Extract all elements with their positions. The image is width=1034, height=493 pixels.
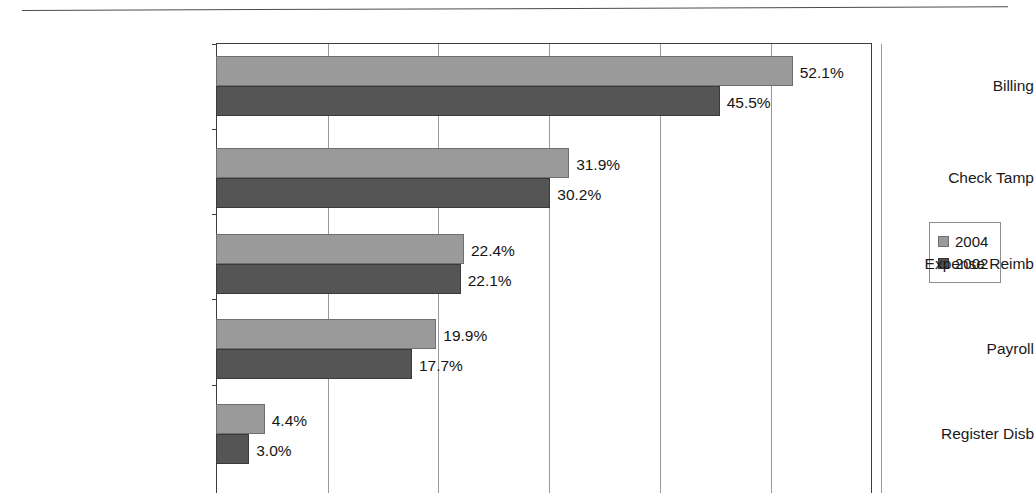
bar-2004-expense-reimb (216, 234, 464, 264)
bar-2002-payroll (216, 349, 412, 379)
bar-value-label: 22.1% (468, 273, 512, 289)
bar-value-label: 4.4% (272, 413, 307, 429)
bar-value-label: 45.5% (727, 95, 771, 111)
bar-2004-payroll (216, 319, 436, 349)
bar-value-label: 17.7% (419, 358, 463, 374)
bar-2004-check-tamp (216, 148, 569, 178)
bar-2004-register-disb (216, 404, 265, 434)
y-axis-tick-2 (212, 214, 217, 215)
y-axis-tick-1 (212, 129, 217, 130)
bar-value-label: 22.4% (471, 243, 515, 259)
bar-2002-billing (216, 86, 720, 116)
bar-2002-expense-reimb (216, 264, 461, 294)
bar-group: Expense Reimb22.4%22.1% (0, 234, 1034, 294)
y-axis-tick-0 (212, 44, 217, 45)
bar-group: Check Tamp31.9%30.2% (0, 148, 1034, 208)
category-label: Check Tamp (830, 170, 1034, 186)
y-axis-tick-3 (212, 299, 217, 300)
bar-group: Register Disb4.4%3.0% (0, 404, 1034, 464)
bar-value-label: 19.9% (443, 328, 487, 344)
bar-group: Billing52.1%45.5% (0, 56, 1034, 116)
category-label: Expense Reimb (830, 256, 1034, 272)
bar-2004-billing (216, 56, 793, 86)
category-label: Payroll (830, 341, 1034, 357)
bar-group: Payroll19.9%17.7% (0, 319, 1034, 379)
category-label: Register Disb (830, 426, 1034, 442)
y-axis-tick-4 (212, 385, 217, 386)
bar-value-label: 52.1% (800, 65, 844, 81)
bar-value-label: 3.0% (256, 443, 291, 459)
bar-2002-register-disb (216, 434, 249, 464)
category-label: Billing (830, 78, 1034, 94)
bar-value-label: 30.2% (557, 187, 601, 203)
bar-2002-check-tamp (216, 178, 550, 208)
bar-value-label: 31.9% (576, 157, 620, 173)
